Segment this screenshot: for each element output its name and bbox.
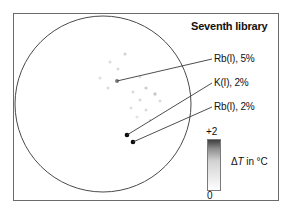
colorbar-axis-label: ΔT in °C — [231, 157, 268, 167]
scatter-point — [109, 61, 112, 64]
colorbar-axis-delta: Δ — [231, 156, 238, 167]
scatter-point — [99, 77, 102, 80]
scatter-point — [144, 86, 147, 89]
page-title: Seventh library — [191, 21, 267, 32]
colorbar-axis-units: in °C — [244, 156, 268, 167]
scatter-point — [107, 87, 110, 90]
scatter-point — [117, 68, 120, 71]
callout-label-rb-5: Rb(I), 5% — [214, 54, 254, 64]
callout-label-rb-2: Rb(I), 2% — [214, 102, 254, 112]
scatter-point — [159, 100, 162, 103]
colorbar-max-label: +2 — [206, 127, 217, 137]
callout-label-k-2: K(I), 2% — [214, 78, 249, 88]
scatter-point — [123, 52, 126, 55]
scatter-point — [153, 92, 156, 95]
colorbar-min-label: 0 — [207, 191, 213, 201]
scatter-point — [132, 91, 135, 94]
wafer-circle — [15, 16, 191, 192]
scatter-point — [136, 116, 139, 119]
scatter-point — [130, 107, 133, 110]
scatter-point — [139, 99, 142, 102]
figure-panel: Seventh library Rb(I), 5% K(I), 2% Rb(I)… — [0, 0, 291, 213]
scatter-point — [145, 109, 148, 112]
delta-t-colorbar — [208, 140, 221, 191]
